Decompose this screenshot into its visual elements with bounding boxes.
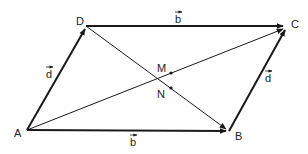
label-c: C	[291, 18, 299, 30]
vector-bc	[229, 30, 285, 131]
vector-label-d-left: d	[46, 67, 53, 80]
vector-ab	[27, 130, 226, 131]
vector-label-b-top: b	[175, 12, 182, 25]
diagonal-ac	[27, 29, 283, 130]
label-a: A	[14, 127, 22, 139]
label-n: N	[157, 88, 165, 100]
svg-text:d: d	[46, 68, 52, 80]
label-m: M	[157, 62, 166, 74]
svg-text:b: b	[130, 136, 136, 148]
vector-label-b-bottom: b	[130, 135, 137, 148]
parallelogram-diagram: A B C D M N d b b d	[0, 0, 308, 154]
svg-text:d: d	[265, 72, 271, 84]
svg-text:b: b	[175, 13, 181, 25]
label-d: D	[76, 15, 84, 27]
diagonal-db	[86, 26, 226, 129]
vector-label-d-right: d	[265, 71, 272, 84]
point-m-dot	[169, 71, 172, 74]
label-b: B	[235, 130, 242, 142]
point-n-dot	[169, 86, 172, 89]
vector-ad	[27, 29, 85, 130]
